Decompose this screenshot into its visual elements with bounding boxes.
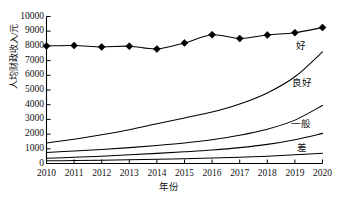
- y-axis-tick-label: 7000: [2, 56, 44, 66]
- series-label-差: 差: [297, 144, 307, 154]
- chart-container: 人均财政收入/元 0100020003000400050006000700080…: [0, 0, 337, 199]
- y-axis-tick-label: 10000: [2, 12, 44, 22]
- y-axis-tick-label: 2000: [2, 129, 44, 139]
- chart-series-markers: [43, 24, 326, 52]
- series-label-好: 好: [296, 42, 306, 52]
- y-axis-tick-label: 1000: [2, 144, 44, 154]
- y-axis-tick-label: 3000: [2, 114, 44, 124]
- y-axis-tick-label: 9000: [2, 26, 44, 36]
- y-axis-tick-label: 8000: [2, 41, 44, 51]
- chart-axes: [47, 17, 323, 164]
- chart-series-lines: [47, 28, 323, 161]
- y-axis-tick-label: 0: [2, 159, 44, 169]
- y-axis-tick-label: 6000: [2, 70, 44, 80]
- series-label-一般: 一般: [291, 120, 311, 130]
- series-label-良好: 良好: [292, 79, 312, 89]
- x-axis-title: 年份: [0, 183, 337, 193]
- x-axis-tick-label: 2020: [306, 169, 337, 179]
- y-axis-tick-label: 4000: [2, 100, 44, 110]
- y-axis-tick-label: 5000: [2, 85, 44, 95]
